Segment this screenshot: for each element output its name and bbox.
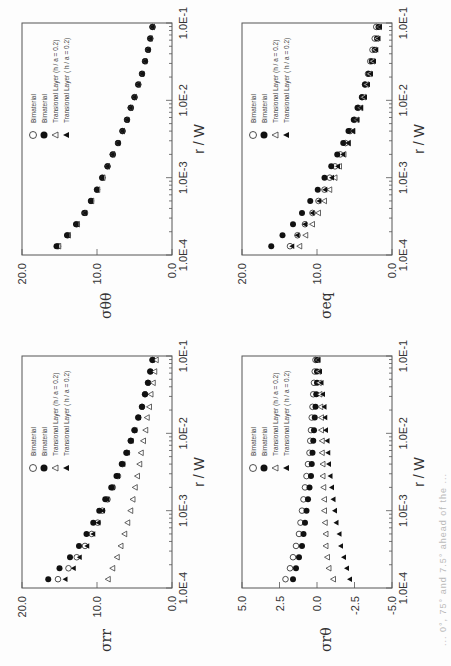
plot-frame — [242, 23, 392, 255]
y-tick-label: 20.0 — [16, 263, 28, 284]
legend-label: Bimaterial — [250, 427, 257, 456]
legend-label: Transional Layer ( h / a = 0.2) — [63, 371, 71, 456]
series-ft — [316, 357, 353, 582]
legend: BimaterialBimaterialTransional Layer (h … — [30, 38, 72, 139]
legend: BimaterialBimaterialTransional Layer (h … — [30, 371, 72, 472]
chart-sigma-r-theta: 1.0E-41.0E-31.0E-21.0E-1r / W-5.0-2.50.0… — [220, 333, 435, 666]
y-tick-label: 10.0 — [91, 596, 103, 617]
x-tick-label: 1.0E-3 — [177, 161, 189, 193]
legend-label: Bimaterial — [261, 94, 268, 123]
series-oc — [55, 357, 155, 582]
y-tick-label: 10.0 — [311, 263, 323, 284]
y-axis-label: σeq — [318, 292, 334, 319]
series-oc — [55, 24, 155, 249]
legend-label: Bimaterial — [30, 427, 37, 456]
legend-label: Bimaterial — [41, 427, 48, 456]
legend-label: Bimaterial — [261, 427, 268, 456]
x-tick-label: 1.0E-1 — [177, 7, 189, 39]
y-tick-label: 20.0 — [236, 263, 248, 284]
series-fc — [45, 357, 155, 582]
x-tick-label: 1.0E-4 — [177, 239, 189, 271]
y-tick-label: 10.0 — [91, 263, 103, 284]
x-tick-label: 1.0E-3 — [177, 494, 189, 526]
x-tick-label: 1.0E-4 — [397, 572, 409, 604]
legend: BimaterialBimaterialTransional Layer (h … — [250, 371, 292, 472]
series-ot — [315, 357, 336, 582]
plot-frame — [242, 356, 392, 588]
x-axis-label: r / W — [191, 123, 207, 153]
rotated-page: 1.0E-41.0E-31.0E-21.0E-1r / W0.010.020.0… — [0, 0, 451, 666]
x-tick-label: 1.0E-2 — [177, 417, 189, 449]
y-tick-label: 0.0 — [386, 263, 398, 278]
figure-caption: ... 0°, 75° and 7.5° ahead of the ... — [438, 473, 448, 646]
x-tick-label: 1.0E-1 — [397, 340, 409, 372]
y-tick-label: 2.5 — [274, 596, 286, 611]
y-tick-label: -5.0 — [386, 596, 398, 615]
legend-label: Transional Layer ( h / a = 0.2) — [283, 38, 291, 123]
y-axis-label: σrθ — [318, 627, 334, 652]
x-tick-label: 1.0E-2 — [397, 84, 409, 116]
legend-label: Transional Layer ( h / a = 0.2) — [63, 38, 71, 123]
series-ot — [105, 357, 158, 582]
x-tick-label: 1.0E-4 — [177, 572, 189, 604]
x-tick-label: 1.0E-2 — [397, 417, 409, 449]
series-ot — [56, 24, 155, 249]
chart-sigma-theta-theta: 1.0E-41.0E-31.0E-21.0E-1r / W0.010.020.0… — [0, 0, 215, 333]
y-tick-label: -2.5 — [349, 596, 361, 615]
x-tick-label: 1.0E-1 — [177, 340, 189, 372]
legend-label: Transional Layer (h / a = 0.2) — [272, 373, 280, 456]
y-tick-label: 0.0 — [311, 596, 323, 611]
legend-label: Transional Layer ( h / a = 0.2) — [283, 371, 291, 456]
legend-label: Bimaterial — [250, 94, 257, 123]
y-axis-label: σrr — [98, 629, 114, 652]
y-tick-label: 20.0 — [16, 596, 28, 617]
x-tick-label: 1.0E-2 — [177, 84, 189, 116]
plot-frame — [22, 356, 172, 588]
legend-label: Bimaterial — [30, 94, 37, 123]
x-tick-label: 1.0E-4 — [397, 239, 409, 271]
x-axis-label: r / W — [411, 123, 427, 153]
plot-frame — [22, 23, 172, 255]
y-tick-label: 0.0 — [166, 263, 178, 278]
x-tick-label: 1.0E-1 — [397, 7, 409, 39]
legend-label: Transional Layer (h / a = 0.2) — [52, 373, 60, 456]
series-ot — [297, 24, 382, 249]
x-axis-label: r / W — [191, 456, 207, 486]
y-tick-label: 5.0 — [236, 596, 248, 611]
legend-label: Transional Layer (h / a = 0.2) — [52, 40, 60, 123]
series-ft — [63, 357, 155, 582]
x-axis-label: r / W — [411, 456, 427, 486]
y-axis-label: σθθ — [98, 293, 114, 319]
x-tick-label: 1.0E-3 — [397, 161, 409, 193]
legend-label: Bimaterial — [41, 94, 48, 123]
y-tick-label: 0.0 — [166, 596, 178, 611]
chart-sigma-eq: 1.0E-41.0E-31.0E-21.0E-1r / W0.010.020.0… — [220, 0, 435, 333]
legend-label: Transional Layer (h / a = 0.2) — [272, 40, 280, 123]
chart-sigma-rr: 1.0E-41.0E-31.0E-21.0E-1r / W0.010.020.0… — [0, 333, 215, 666]
legend: BimaterialBimaterialTransional Layer (h … — [250, 38, 292, 139]
x-tick-label: 1.0E-3 — [397, 494, 409, 526]
